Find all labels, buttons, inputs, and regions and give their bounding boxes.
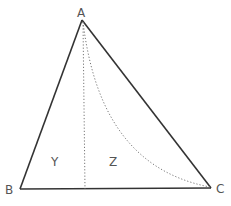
vertex-label-c: C bbox=[216, 182, 224, 196]
altitude-line bbox=[83, 22, 85, 189]
region-label-y: Y bbox=[50, 155, 59, 169]
triangle-diagram: A B C Y Z bbox=[0, 0, 231, 206]
vertex-label-b: B bbox=[5, 183, 13, 197]
edge-bc bbox=[20, 188, 211, 189]
edge-ca bbox=[82, 20, 211, 188]
region-label-z: Z bbox=[109, 155, 117, 169]
vertex-label-a: A bbox=[77, 6, 86, 20]
